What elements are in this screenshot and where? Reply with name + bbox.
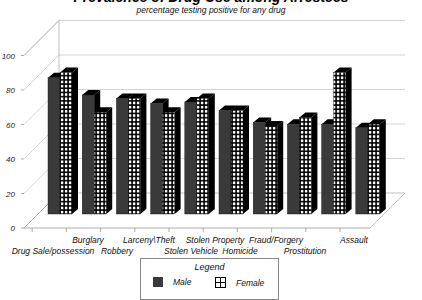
legend-item-male: Male — [153, 277, 191, 287]
legend-title: Legend — [141, 262, 278, 272]
category-label: Larceny\Theft — [123, 235, 176, 245]
category-label: Homicide — [222, 246, 258, 256]
category-labels: BurglaryDrug Sale/possessionLarceny\Thef… — [12, 235, 369, 256]
legend-label-female: Female — [236, 278, 264, 288]
category-label: Robbery — [101, 246, 134, 256]
bar-female — [163, 107, 181, 214]
bar-female — [197, 93, 215, 214]
category-label: Assault — [339, 235, 369, 245]
category-label: Stolen Vehicle — [164, 246, 218, 256]
bar-female — [368, 119, 386, 214]
bar-female — [299, 112, 317, 214]
bar-female — [231, 106, 249, 215]
legend-item-female: Female — [215, 277, 264, 288]
y-tick-label: 60 — [6, 121, 15, 130]
category-label: Stolen Property — [186, 235, 245, 245]
legend-label-male: Male — [173, 277, 191, 287]
solid-square-icon — [153, 277, 163, 287]
category-label: Burglary — [72, 235, 104, 245]
category-label: Fraud/Forgery — [249, 235, 304, 245]
category-label: Drug Sale/possession — [12, 246, 95, 256]
bar-female — [265, 121, 283, 214]
bar-female — [94, 107, 112, 214]
y-tick-label: 100 — [2, 52, 16, 61]
y-tick-label: 0 — [11, 224, 16, 233]
y-tick-label: 20 — [5, 190, 15, 199]
legend: Legend Male Female — [140, 258, 279, 300]
bar-female — [334, 68, 352, 214]
y-tick-label: 80 — [6, 86, 15, 95]
category-label: Prostitution — [284, 246, 327, 256]
y-tick-label: 40 — [6, 155, 15, 164]
grid-square-icon — [215, 277, 226, 288]
bar-female — [128, 93, 146, 214]
bar-female — [60, 68, 78, 214]
